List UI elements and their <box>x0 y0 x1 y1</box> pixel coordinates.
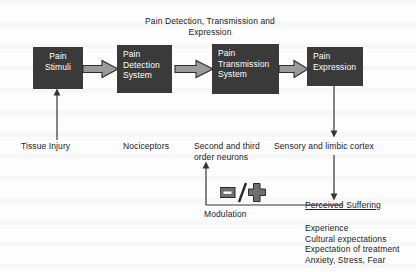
box-line: System <box>218 69 274 80</box>
box-line: System <box>123 70 167 81</box>
label-line: Second and third <box>194 141 266 152</box>
box-line: Pain <box>313 51 358 62</box>
arrow-down-to-cortex-icon <box>328 86 340 138</box>
list-item: Expectation of treatment <box>305 244 400 255</box>
label-nociceptors: Nociceptors <box>123 141 169 152</box>
box-line: Stimuli <box>37 62 79 73</box>
list-item: Experience <box>305 223 400 234</box>
modulation-symbol <box>220 182 268 208</box>
block-arrow-right-icon <box>83 60 119 78</box>
list-item: Cultural expectations <box>305 234 400 245</box>
block-arrow-right-icon <box>175 60 214 78</box>
arrow-up-tissue-injury-icon <box>51 88 63 140</box>
box-line: Pain <box>218 48 274 59</box>
process-box-pain-transmission[interactable]: Pain Transmission System <box>212 44 279 94</box>
process-box-pain-expression[interactable]: Pain Expression <box>307 47 363 86</box>
label-second-third-order-neurons: Second and third order neurons <box>194 141 266 162</box>
box-line: Pain <box>123 49 167 60</box>
label-sensory-limbic-cortex: Sensory and limbic cortex <box>274 141 374 152</box>
list-item: Anxiety, Stress, Fear <box>305 255 400 266</box>
label-modulation: Modulation <box>204 209 247 220</box>
figure-canvas: Pain Detection, Transmission and Express… <box>0 0 416 272</box>
process-box-pain-detection[interactable]: Pain Detection System <box>117 45 172 93</box>
minus-slash-plus-icon <box>220 182 268 204</box>
box-line: Expression <box>313 62 358 73</box>
block-arrow-right-icon <box>279 60 309 78</box>
box-line: Pain <box>37 51 79 62</box>
process-box-pain-stimuli[interactable]: Pain Stimuli <box>33 47 83 89</box>
label-perceived-suffering: Perceived Suffering <box>305 200 381 211</box>
list-suffering-factors: Experience Cultural expectations Expecta… <box>305 223 400 265</box>
figure-title: Pain Detection, Transmission and Express… <box>130 16 290 38</box>
box-line: Transmission <box>218 59 274 70</box>
box-line: Detection <box>123 60 167 71</box>
label-tissue-injury: Tissue Injury <box>21 141 70 152</box>
